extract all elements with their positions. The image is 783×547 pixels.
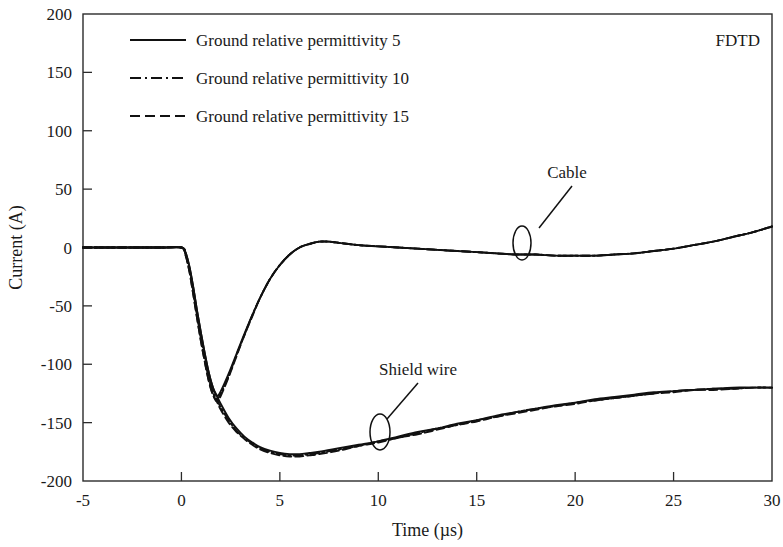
curve-shield-wire-dash-dot <box>83 247 772 455</box>
legend-label: Ground relative permittivity 5 <box>196 31 400 50</box>
y-tick-label: 150 <box>47 63 73 82</box>
annotation-label-shield-wire: Shield wire <box>379 360 457 379</box>
x-tick-label: 5 <box>276 491 285 510</box>
y-tick-label: 200 <box>47 5 73 24</box>
x-tick-label: -5 <box>76 491 90 510</box>
figure-container: -200-150-100-50050100150200-505101520253… <box>0 0 783 547</box>
y-tick-label: 100 <box>47 122 73 141</box>
x-tick-label: 0 <box>177 491 186 510</box>
legend-label: Ground relative permittivity 15 <box>196 107 409 126</box>
y-axis-title: Current (A) <box>6 205 27 289</box>
annotation-leader-shield-wire <box>387 383 418 419</box>
y-tick-label: -50 <box>49 297 72 316</box>
y-tick-label: -100 <box>41 355 72 374</box>
curves-layer <box>83 226 772 456</box>
x-axis-title: Time (µs) <box>392 520 463 541</box>
chart-svg: -200-150-100-50050100150200-505101520253… <box>0 0 783 547</box>
plot-frame <box>83 14 772 481</box>
x-tick-label: 10 <box>370 491 387 510</box>
curve-shield-wire-dashed <box>83 247 772 457</box>
annotation-marker-shield-wire <box>370 414 390 450</box>
legend-label: Ground relative permittivity 10 <box>196 69 409 88</box>
y-tick-label: 0 <box>64 239 73 258</box>
y-tick-label: -150 <box>41 414 72 433</box>
x-tick-label: 20 <box>567 491 584 510</box>
corner-label-fdtd: FDTD <box>716 31 760 50</box>
curve-shield-wire-solid <box>83 247 772 454</box>
annotation-leader-cable <box>539 186 572 228</box>
y-tick-label: 50 <box>55 180 72 199</box>
annotation-label-cable: Cable <box>547 163 587 182</box>
y-tick-label: -200 <box>41 472 72 491</box>
legend-layer: Ground relative permittivity 5Ground rel… <box>130 31 409 126</box>
x-tick-label: 30 <box>764 491 781 510</box>
x-tick-label: 15 <box>468 491 485 510</box>
x-tick-label: 25 <box>665 491 682 510</box>
